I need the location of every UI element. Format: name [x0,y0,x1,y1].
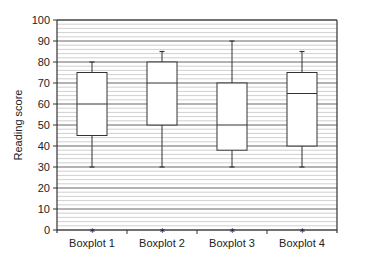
box [287,73,317,147]
x-axis-labels: Boxplot 1Boxplot 2Boxplot 3Boxplot 4 [69,237,325,249]
outlier-marker: ∗ [89,226,96,235]
boxplot-chart: 0102030405060708090100 ∗∗∗∗ Boxplot 1Box… [0,0,372,264]
y-tick-label: 50 [38,119,50,131]
outlier-marker: ∗ [299,226,306,235]
y-tick-label: 90 [38,35,50,47]
y-tick-label: 10 [38,203,50,215]
y-tick-label: 40 [38,140,50,152]
y-tick-label: 0 [44,224,50,236]
chart-canvas: 0102030405060708090100 ∗∗∗∗ Boxplot 1Box… [0,0,372,264]
outlier-marker: ∗ [159,226,166,235]
boxplot-4: ∗ [287,52,317,236]
box [147,62,177,125]
x-tick-label: Boxplot 2 [139,237,185,249]
outlier-marker: ∗ [229,226,236,235]
x-tick-label: Boxplot 3 [209,237,255,249]
y-tick-label: 100 [32,14,50,26]
y-tick-label: 60 [38,98,50,110]
y-tick-label: 30 [38,161,50,173]
y-tick-label: 20 [38,182,50,194]
x-tick-label: Boxplot 4 [279,237,325,249]
box [217,83,247,150]
boxplot-2: ∗ [147,52,177,236]
x-tick-label: Boxplot 1 [69,237,115,249]
y-axis-label: Reading score [12,90,24,161]
y-tick-label: 80 [38,56,50,68]
y-tick-label: 70 [38,77,50,89]
